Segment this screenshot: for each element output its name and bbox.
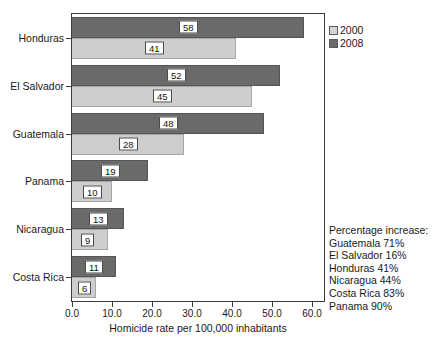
percentage-increase-annotation: Percentage increase:Guatemala 71%El Salv… [329, 224, 433, 312]
bar-guatemala-2000: 28 [72, 134, 184, 155]
bar-nicaragua-2000: 9 [72, 229, 108, 250]
bar-value-label: 11 [85, 260, 103, 273]
bar-value-label: 28 [119, 138, 138, 151]
bar-el-salvador-2000: 45 [72, 86, 252, 107]
chart-figure: HondurasEl SalvadorGuatemalaPanamaNicara… [0, 0, 434, 349]
x-axis-tick [72, 302, 73, 307]
x-axis-tick-label: 40.0 [222, 308, 241, 320]
bar-honduras-2008: 58 [72, 17, 304, 38]
bar-value-label: 45 [153, 90, 172, 103]
legend-swatch-2008 [329, 39, 338, 48]
category-label-honduras: Honduras [18, 32, 71, 44]
x-axis-tick-label: 20.0 [142, 308, 161, 320]
legend-item-2000: 2000 [329, 24, 429, 36]
x-axis-tick-label: 0.0 [65, 308, 79, 320]
category-label-el-salvador: El Salvador [10, 80, 71, 92]
bar-value-label: 41 [145, 42, 164, 55]
bar-value-label: 13 [89, 212, 108, 225]
category-label-nicaragua: Nicaragua [16, 223, 71, 235]
legend-label-2000: 2000 [340, 24, 363, 36]
category-label-panama: Panama [25, 175, 71, 187]
annotation-line: Panama 90% [329, 300, 433, 313]
annotation-line: Nicaragua 44% [329, 274, 433, 287]
x-axis-tick-label: 10.0 [102, 308, 121, 320]
annotation-line: El Salvador 16% [329, 249, 433, 262]
x-axis-tick-label: 60.0 [302, 308, 321, 320]
x-axis-tick [272, 302, 273, 307]
x-axis-tick [312, 302, 313, 307]
annotation-line: Honduras 41% [329, 262, 433, 275]
annotation-line: Costa Rica 83% [329, 287, 433, 300]
legend-label-2008: 2008 [340, 37, 363, 49]
annotation-line: Guatemala 71% [329, 237, 433, 250]
bar-panama-2000: 10 [72, 181, 112, 202]
bar-value-label: 9 [81, 233, 94, 246]
x-axis-tick-label: 50.0 [262, 308, 281, 320]
legend-item-2008: 2008 [329, 37, 429, 49]
bar-guatemala-2008: 48 [72, 113, 264, 134]
bar-nicaragua-2008: 13 [72, 208, 124, 229]
annotation-heading: Percentage increase: [329, 224, 433, 237]
category-label-costa-rica: Costa Rica [13, 271, 71, 283]
bar-el-salvador-2008: 52 [72, 65, 280, 86]
bar-honduras-2000: 41 [72, 38, 236, 59]
bar-costa-rica-2000: 6 [72, 277, 96, 298]
bar-panama-2008: 19 [72, 160, 148, 181]
bar-value-label: 52 [167, 69, 186, 82]
x-axis-title: Homicide rate per 100,000 inhabitants [71, 322, 325, 335]
legend-swatch-2000 [329, 26, 338, 35]
bar-value-label: 6 [78, 281, 91, 294]
category-label-guatemala: Guatemala [13, 128, 71, 140]
category-axis: HondurasEl SalvadorGuatemalaPanamaNicara… [0, 13, 71, 302]
chart-legend: 2000 2008 [329, 24, 429, 50]
x-axis-tick [152, 302, 153, 307]
bar-value-label: 58 [179, 21, 198, 34]
x-axis-tick [112, 302, 113, 307]
bar-value-label: 10 [83, 185, 102, 198]
bar-value-label: 48 [159, 117, 178, 130]
bar-value-label: 19 [101, 164, 120, 177]
bar-costa-rica-2008: 11 [72, 256, 116, 277]
x-axis-tick [232, 302, 233, 307]
bars-layer: 5841524548281910139116 [72, 14, 324, 301]
x-axis-tick [192, 302, 193, 307]
x-axis-tick-label: 30.0 [182, 308, 201, 320]
